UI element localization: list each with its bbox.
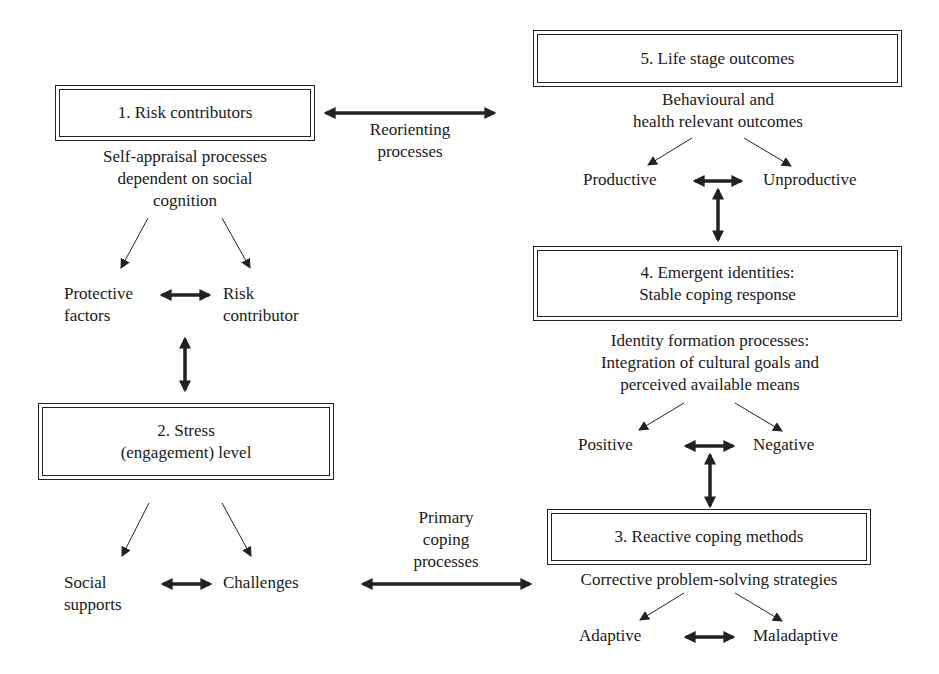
- outcome-line: Social: [64, 572, 122, 594]
- box-emergent-subtitle: Stable coping response: [639, 284, 796, 306]
- box-risk-title: 1. Risk contributors: [118, 102, 253, 124]
- link-label-line: processes: [370, 141, 450, 163]
- outcome-productive: Productive: [583, 169, 657, 191]
- link-label-line: Primary: [413, 507, 478, 529]
- box-stress-level: 2. Stress (engagement) level: [38, 403, 334, 480]
- outcome-unproductive: Unproductive: [763, 169, 856, 191]
- outcome-maladaptive: Maladaptive: [753, 625, 838, 647]
- life-process-text: Behavioural and health relevant outcomes: [633, 89, 803, 133]
- emergent-process-line: Integration of cultural goals and: [601, 352, 819, 374]
- box-reactive-coping-methods: 3. Reactive coping methods: [547, 509, 871, 565]
- risk-process-line: Self-appraisal processes: [103, 146, 267, 168]
- link-label-line: Reorienting: [370, 119, 450, 141]
- risk-process-text: Self-appraisal processes dependent on so…: [103, 146, 267, 212]
- outcome-line: supports: [64, 594, 122, 616]
- emergent-process-line: perceived available means: [601, 374, 819, 396]
- risk-process-line: dependent on social: [103, 168, 267, 190]
- outcome-line: factors: [64, 305, 133, 327]
- link-label-line: processes: [413, 551, 478, 573]
- outcome-adaptive: Adaptive: [579, 625, 641, 647]
- box-stress-title: 2. Stress: [157, 420, 215, 442]
- emergent-process-line: Identity formation processes:: [601, 330, 819, 352]
- outcome-line: Challenges: [223, 572, 299, 594]
- box-stress-subtitle: (engagement) level: [121, 442, 252, 464]
- link-label-line: coping: [413, 529, 478, 551]
- box-emergent-identities: 4. Emergent identities: Stable coping re…: [533, 246, 902, 321]
- box-risk-contributors: 1. Risk contributors: [55, 85, 315, 141]
- box-life-stage-outcomes: 5. Life stage outcomes: [533, 30, 902, 87]
- emergent-process-text: Identity formation processes: Integratio…: [601, 330, 819, 396]
- outcome-positive: Positive: [578, 434, 633, 456]
- life-process-line: Behavioural and: [633, 89, 803, 111]
- outcome-line: contributor: [223, 305, 299, 327]
- life-process-line: health relevant outcomes: [633, 111, 803, 133]
- outcome-protective-factors: Protective factors: [64, 283, 133, 327]
- outcome-risk-contributor: Risk contributor: [223, 283, 299, 327]
- risk-process-line: cognition: [103, 190, 267, 212]
- box-reactive-title: 3. Reactive coping methods: [615, 526, 804, 548]
- outcome-line: Protective: [64, 283, 133, 305]
- box-life-title: 5. Life stage outcomes: [641, 48, 795, 70]
- reactive-process-line: Corrective problem-solving strategies: [581, 569, 838, 591]
- outcome-social-supports: Social supports: [64, 572, 122, 616]
- reorienting-processes-label: Reorienting processes: [370, 119, 450, 163]
- reactive-process-text: Corrective problem-solving strategies: [581, 569, 838, 591]
- primary-coping-processes-label: Primary coping processes: [413, 507, 478, 573]
- outcome-negative: Negative: [753, 434, 814, 456]
- coping-model-diagram: 1. Risk contributors Self-appraisal proc…: [0, 0, 939, 674]
- outcome-challenges: Challenges: [223, 572, 299, 594]
- outcome-line: Risk: [223, 283, 299, 305]
- box-emergent-title: 4. Emergent identities:: [640, 262, 794, 284]
